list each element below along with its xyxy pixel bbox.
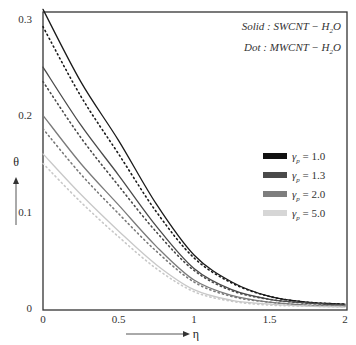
legend-swatch	[263, 210, 287, 216]
y-tick-label: 0	[27, 302, 33, 314]
y-tick-label: 0.3	[18, 13, 32, 25]
x-axis-ticks: 00.511.52	[40, 313, 348, 325]
theta-vs-eta-chart: 00.10.20.3 00.511.52 Solid : SWCNT − H2O…	[0, 0, 356, 345]
y-axis-arrow-icon	[13, 177, 19, 225]
y-tick-label: 0.2	[18, 109, 32, 121]
legend-swatch	[263, 191, 287, 197]
y-axis-ticks: 00.10.20.3	[18, 13, 32, 314]
legend-swatch	[263, 172, 287, 178]
x-tick-label: 0	[40, 313, 46, 325]
x-tick-label: 1	[191, 313, 197, 325]
x-tick-label: 1.5	[263, 313, 277, 325]
y-tick-label: 0.1	[18, 206, 32, 218]
x-tick-label: 2	[342, 313, 348, 325]
legend-swatch	[263, 153, 287, 159]
y-axis-label: θ	[13, 155, 19, 169]
x-tick-label: 0.5	[112, 313, 126, 325]
x-axis-label: η	[193, 327, 199, 341]
x-axis-arrow-icon	[126, 331, 190, 337]
